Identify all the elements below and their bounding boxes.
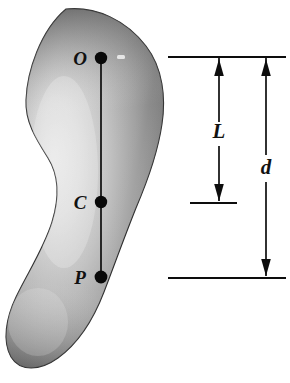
point-marker-C — [95, 196, 107, 208]
point-label-P: P — [73, 267, 86, 288]
dimension-L: L — [212, 58, 226, 201]
dimension-d-arrowhead-up — [261, 59, 271, 76]
dimension-label-L: L — [212, 119, 226, 143]
point-label-C: C — [74, 192, 87, 213]
point-marker-P — [95, 271, 108, 284]
highlight-speck — [117, 55, 125, 59]
rigid-body-pendulum-diagram: O C P L d — [0, 0, 290, 383]
dimension-label-d: d — [261, 155, 272, 179]
dimension-L-arrowhead-down — [214, 184, 224, 201]
dimension-L-arrowhead-up — [214, 59, 224, 76]
point-marker-O — [95, 52, 107, 64]
dimension-d-arrowhead-down — [261, 259, 271, 276]
dimension-d: d — [261, 58, 272, 276]
point-label-O: O — [73, 48, 87, 69]
